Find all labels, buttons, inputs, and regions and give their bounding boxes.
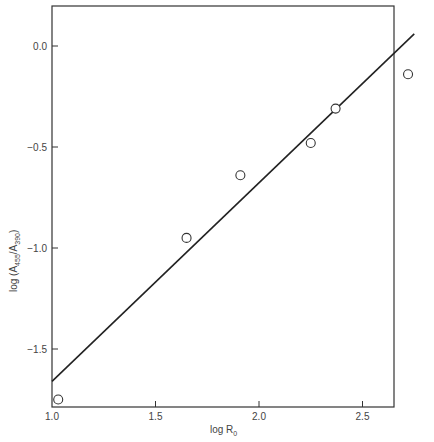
data-point-circle bbox=[331, 104, 340, 113]
scatter-chart: 1.01.52.02.50.0−0.5−1.0−1.5 log R0 log (… bbox=[0, 0, 434, 442]
y-axis-label: log (A455/A390) bbox=[8, 230, 21, 292]
data-points bbox=[54, 70, 413, 404]
y-tick-label: 0.0 bbox=[33, 41, 47, 52]
fit-line bbox=[52, 34, 414, 381]
x-tick-label: 2.5 bbox=[356, 411, 370, 422]
data-point-circle bbox=[306, 138, 315, 147]
data-point-circle bbox=[404, 70, 413, 79]
plot-frame bbox=[52, 6, 394, 407]
y-tick-label: −1.5 bbox=[27, 344, 47, 355]
y-tick-label: −1.0 bbox=[27, 243, 47, 254]
x-tick-label: 1.5 bbox=[149, 411, 163, 422]
x-tick-label: 2.0 bbox=[252, 411, 266, 422]
data-point-circle bbox=[236, 171, 245, 180]
data-point-circle bbox=[54, 395, 63, 404]
data-point-circle bbox=[182, 233, 191, 242]
axis-ticks: 1.01.52.02.50.0−0.5−1.0−1.5 bbox=[27, 41, 370, 423]
y-tick-label: −0.5 bbox=[27, 142, 47, 153]
x-axis-label: log R0 bbox=[210, 424, 237, 437]
x-tick-label: 1.0 bbox=[45, 411, 59, 422]
